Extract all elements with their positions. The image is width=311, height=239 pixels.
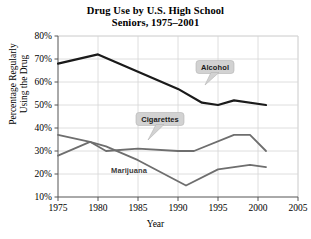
- y-tick-label: 30%: [35, 146, 53, 156]
- y-tick-label: 20%: [35, 169, 53, 179]
- callout-tail: [205, 73, 219, 86]
- x-tick-label: 1990: [169, 203, 188, 213]
- x-tick-label: 1975: [49, 203, 68, 213]
- x-tick-label: 2000: [249, 203, 268, 213]
- series-line-alcohol: [58, 54, 266, 105]
- x-tick-label: 1985: [129, 203, 148, 213]
- callout-label: Alcohol: [201, 63, 229, 72]
- x-tick-label: 2005: [289, 203, 308, 213]
- series-labels: AlcoholCigarettesMarijuana: [111, 61, 234, 176]
- series-line-marijuana: [58, 142, 266, 186]
- y-tick-label: 80%: [35, 31, 53, 41]
- callout-tail: [148, 125, 164, 141]
- chart-figure: Drug Use by U.S. High School Seniors, 19…: [0, 0, 311, 239]
- series-label-marijuana: Marijuana: [111, 166, 148, 175]
- y-tick-label: 10%: [35, 192, 53, 202]
- y-tick-label: 70%: [35, 54, 53, 64]
- x-tick-label: 1980: [89, 203, 108, 213]
- y-tick-label: 60%: [35, 77, 53, 87]
- callout-alcohol: Alcohol: [196, 61, 234, 86]
- callout-label: Cigarettes: [141, 115, 179, 124]
- y-tick-label: 50%: [35, 100, 53, 110]
- x-tick-label: 1995: [209, 203, 228, 213]
- line-chart-plot: 10%20%30%40%50%60%70%80%1975198019851990…: [0, 0, 311, 239]
- callout-cigarettes: Cigarettes: [136, 113, 184, 141]
- y-tick-label: 40%: [35, 123, 53, 133]
